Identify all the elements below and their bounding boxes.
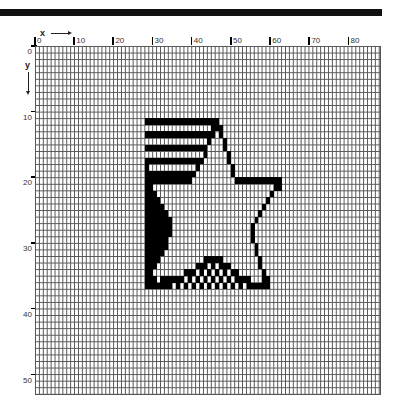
filled-cell[interactable] (196, 276, 200, 283)
filled-cell[interactable] (227, 151, 231, 158)
header-bar (0, 9, 382, 16)
filled-cell[interactable] (266, 283, 270, 290)
filled-cell[interactable] (207, 138, 211, 145)
x-arrow-icon (51, 33, 69, 34)
filled-cell[interactable] (164, 237, 168, 244)
filled-cell[interactable] (258, 263, 262, 270)
y-tick-label: 50 (18, 376, 32, 385)
filled-cell[interactable] (266, 197, 270, 204)
filled-cell[interactable] (223, 283, 227, 290)
filled-cell[interactable] (164, 243, 168, 250)
x-tick-label: 50 (233, 36, 242, 45)
filled-cell[interactable] (223, 138, 227, 145)
filled-cell[interactable] (192, 283, 196, 290)
y-tick-label: 0 (18, 47, 32, 56)
x-tick-label: 80 (351, 36, 360, 45)
filled-cell[interactable] (196, 164, 200, 171)
filled-cell[interactable] (258, 210, 262, 217)
filled-cell[interactable] (211, 131, 215, 138)
filled-cell[interactable] (266, 276, 270, 283)
x-tick-label: 70 (311, 36, 320, 45)
x-tick-label: 10 (76, 36, 85, 45)
filled-cell[interactable] (168, 283, 172, 290)
filled-cell[interactable] (157, 256, 161, 263)
filled-cell[interactable] (200, 158, 204, 165)
filled-cell[interactable] (204, 151, 208, 158)
pixel-grid[interactable] (35, 46, 381, 395)
x-tick-label: 0 (37, 36, 41, 45)
y-axis-label: y (25, 60, 30, 70)
filled-cell[interactable] (207, 283, 211, 290)
y-arrow-icon (28, 72, 29, 92)
filled-cell[interactable] (251, 223, 255, 230)
filled-cell[interactable] (160, 250, 164, 257)
x-tick-label: 40 (194, 36, 203, 45)
filled-cell[interactable] (180, 276, 184, 283)
filled-cell[interactable] (270, 191, 274, 198)
filled-cell[interactable] (231, 283, 235, 290)
y-tick-label: 40 (18, 310, 32, 319)
x-tick-label: 30 (155, 36, 164, 45)
x-tick-label: 20 (115, 36, 124, 45)
filled-cell[interactable] (188, 177, 192, 184)
filled-cell[interactable] (251, 237, 255, 244)
filled-cell[interactable] (168, 223, 172, 230)
filled-cell[interactable] (231, 164, 235, 171)
filled-cell[interactable] (192, 171, 196, 178)
filled-cell[interactable] (188, 276, 192, 283)
filled-cell[interactable] (262, 204, 266, 211)
y-tick-label: 30 (18, 244, 32, 253)
filled-cell[interactable] (200, 283, 204, 290)
filled-cell[interactable] (184, 283, 188, 290)
filled-cell[interactable] (227, 276, 231, 283)
filled-cell[interactable] (153, 263, 157, 270)
y-tick-label: 10 (18, 113, 32, 122)
filled-cell[interactable] (176, 283, 180, 290)
filled-cell[interactable] (278, 184, 282, 191)
filled-cell[interactable] (153, 191, 157, 198)
filled-cell[interactable] (247, 276, 251, 283)
filled-cell[interactable] (168, 230, 172, 237)
y-tick-label: 20 (18, 178, 32, 187)
filled-cell[interactable] (255, 250, 259, 257)
filled-cell[interactable] (219, 276, 223, 283)
filled-cell[interactable] (204, 263, 208, 270)
filled-cell[interactable] (211, 276, 215, 283)
filled-cell[interactable] (211, 263, 215, 270)
filled-cell[interactable] (227, 263, 231, 270)
filled-cell[interactable] (160, 204, 164, 211)
filled-cell[interactable] (215, 283, 219, 290)
filled-cell[interactable] (153, 276, 157, 283)
filled-cell[interactable] (145, 164, 149, 171)
filled-cell[interactable] (278, 177, 282, 184)
x-tick-label: 60 (272, 36, 281, 45)
filled-cell[interactable] (219, 125, 223, 132)
filled-cell[interactable] (239, 283, 243, 290)
filled-cell[interactable] (204, 276, 208, 283)
filled-cell[interactable] (255, 217, 259, 224)
